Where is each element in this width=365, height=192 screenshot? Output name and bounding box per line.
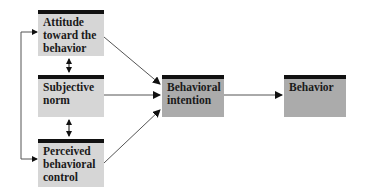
node-attitude-label: Attitude toward the behavior: [43, 16, 96, 54]
node-subjective-norm: Subjective norm: [38, 75, 104, 117]
attitude-to-intention-arrow: [104, 37, 160, 84]
node-behavior: Behavior: [284, 75, 346, 117]
node-subjective-norm-label: Subjective norm: [43, 81, 94, 106]
node-perceived-control: Perceived behavioral control: [38, 139, 104, 187]
control-to-intention-arrow: [104, 110, 160, 163]
bracket-arrow: [21, 32, 37, 159]
node-behavior-label: Behavior: [289, 81, 334, 93]
node-intention-label: Behavioral intention: [167, 81, 221, 106]
node-intention: Behavioral intention: [162, 75, 224, 117]
node-perceived-control-label: Perceived behavioral control: [43, 145, 95, 183]
node-attitude: Attitude toward the behavior: [38, 10, 104, 56]
